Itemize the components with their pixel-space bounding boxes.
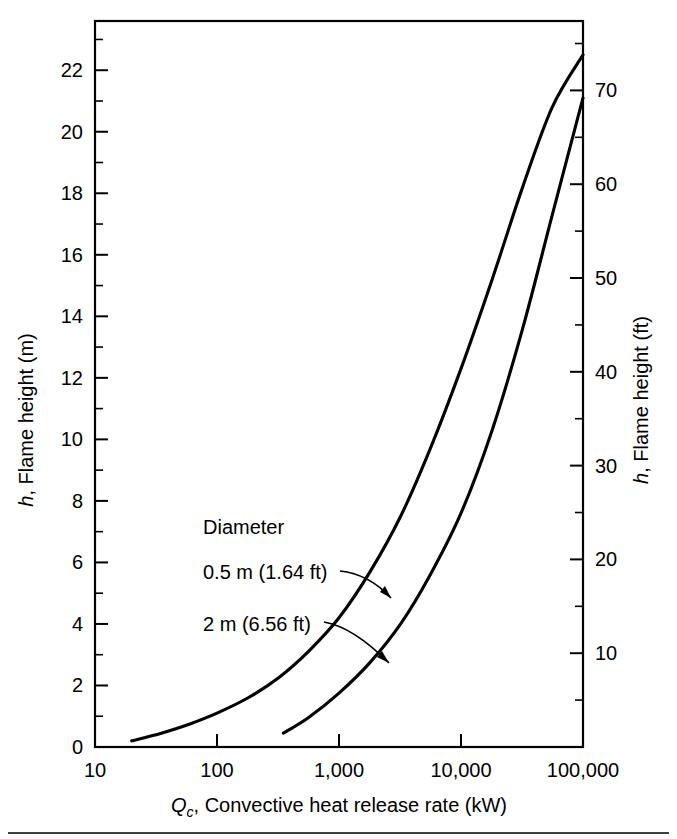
y-tick-label-6: 6 bbox=[72, 551, 83, 573]
x-tick-label-10: 10 bbox=[84, 759, 106, 781]
y-tick-label-0: 0 bbox=[72, 736, 83, 758]
y-right-tick-label-30: 30 bbox=[595, 455, 617, 477]
y-right-tick-label-20: 20 bbox=[595, 548, 617, 570]
y-tick-label-18: 18 bbox=[61, 182, 83, 204]
flame-height-chart: 0246810121416182022 10203040506070 10100… bbox=[0, 0, 677, 839]
y-right-tick-label-50: 50 bbox=[595, 267, 617, 289]
y-axis-title-right-symbol: h bbox=[630, 473, 652, 484]
y-axis-title-left-rest: , Flame height (m) bbox=[15, 333, 37, 495]
y-tick-label-16: 16 bbox=[61, 244, 83, 266]
y-tick-label-22: 22 bbox=[61, 59, 83, 81]
y-axis-title-right: h, Flame height (ft) bbox=[630, 316, 652, 484]
curve-series-2 bbox=[283, 98, 583, 733]
y-right-tick-label-40: 40 bbox=[595, 361, 617, 383]
y-tick-label-12: 12 bbox=[61, 367, 83, 389]
curve-series-1 bbox=[132, 55, 583, 741]
y-axis-title-right-rest: , Flame height (ft) bbox=[630, 316, 652, 473]
x-axis-title: Qc, Convective heat release rate (kW) bbox=[171, 794, 507, 820]
flame-height-figure: 0246810121416182022 10203040506070 10100… bbox=[0, 0, 677, 839]
annotation-series2-label: 2 m (6.56 ft) bbox=[203, 613, 311, 635]
data-curves bbox=[132, 55, 583, 741]
leader-arrow-series1 bbox=[340, 571, 391, 598]
y-right-tick-label-60: 60 bbox=[595, 173, 617, 195]
x-tick-label-100: 100 bbox=[200, 759, 233, 781]
y-axis-right-tick-labels: 10203040506070 bbox=[595, 79, 617, 664]
y-right-tick-label-10: 10 bbox=[595, 642, 617, 664]
y-axis-tick-labels: 0246810121416182022 bbox=[61, 59, 83, 758]
y-axis-title-left: h, Flame height (m) bbox=[15, 333, 37, 506]
x-axis-tick-labels: 101001,00010,000100,000 bbox=[84, 759, 619, 781]
plot-frame bbox=[95, 21, 583, 747]
x-axis-title-symbol: Q bbox=[171, 794, 187, 816]
y-tick-label-2: 2 bbox=[72, 674, 83, 696]
x-tick-label-1000: 1,000 bbox=[314, 759, 364, 781]
y-right-tick-label-70: 70 bbox=[595, 79, 617, 101]
x-axis-title-subscript: c bbox=[187, 804, 194, 820]
annotation-series1-label: 0.5 m (1.64 ft) bbox=[203, 561, 328, 583]
y-tick-label-14: 14 bbox=[61, 305, 83, 327]
x-tick-label-10000: 10,000 bbox=[430, 759, 491, 781]
x-tick-label-100000: 100,000 bbox=[547, 759, 619, 781]
x-axis-title-rest: , Convective heat release rate (kW) bbox=[194, 794, 507, 816]
x-axis-ticks bbox=[217, 734, 461, 747]
y-tick-label-4: 4 bbox=[72, 613, 83, 635]
y-axis-title-left-symbol: h bbox=[15, 496, 37, 507]
y-axis-ticks bbox=[95, 39, 108, 716]
y-tick-label-8: 8 bbox=[72, 490, 83, 512]
y-tick-label-10: 10 bbox=[61, 428, 83, 450]
leader-arrow-series2 bbox=[324, 622, 389, 663]
annotation-diameter-heading: Diameter bbox=[203, 516, 284, 538]
y-tick-label-20: 20 bbox=[61, 121, 83, 143]
